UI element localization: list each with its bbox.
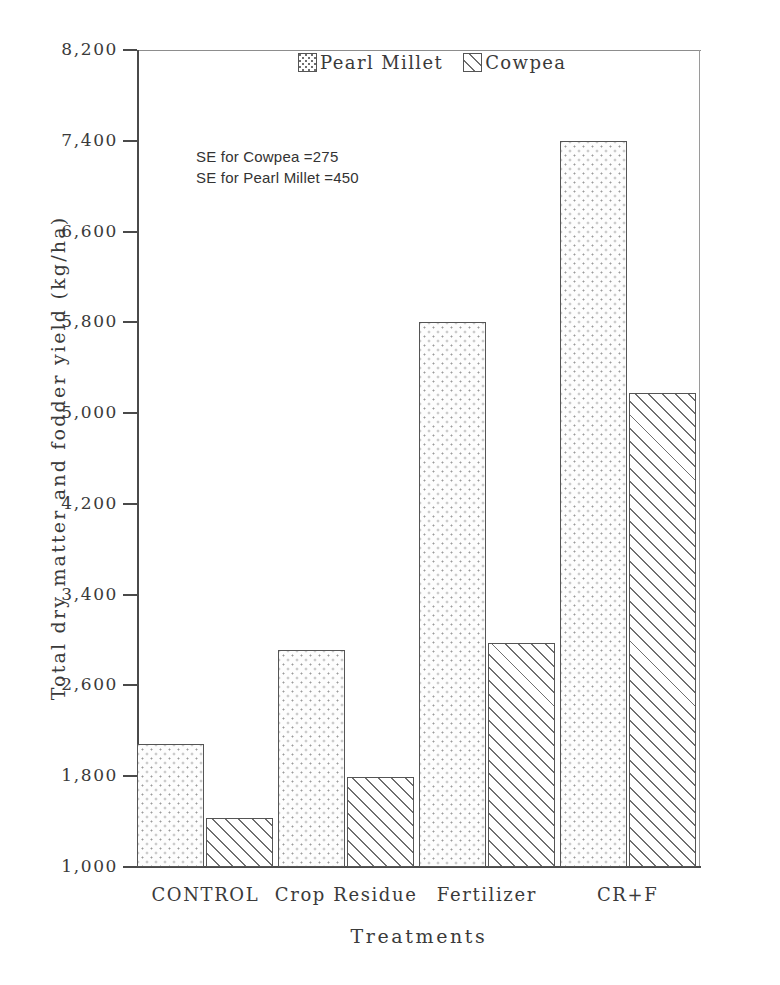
bar-pearl-millet-fertilizer bbox=[419, 322, 486, 867]
x-axis-label-cr-f: CR+F bbox=[528, 884, 728, 905]
bar-cowpea-fertilizer bbox=[488, 643, 555, 867]
legend-swatch-hatched-icon bbox=[463, 53, 482, 72]
plot-right-border bbox=[699, 50, 700, 868]
legend-swatch-dotted-icon bbox=[298, 53, 317, 72]
legend-item-cowpea: Cowpea bbox=[463, 52, 566, 73]
y-axis-tick bbox=[123, 412, 137, 414]
legend-label-cowpea: Cowpea bbox=[485, 52, 566, 73]
bar-pearl-millet-control bbox=[137, 744, 204, 867]
bar-pearl-millet-crop-residue bbox=[278, 650, 345, 867]
y-axis-tick bbox=[123, 321, 137, 323]
y-axis-tick bbox=[123, 49, 137, 51]
plot-top-border bbox=[137, 50, 701, 51]
y-axis-tick bbox=[123, 594, 137, 596]
bar-cowpea-cr-f bbox=[629, 393, 696, 867]
y-axis-tick bbox=[123, 231, 137, 233]
y-axis-tick bbox=[123, 775, 137, 777]
se-pearl-millet-text: SE for Pearl Millet =450 bbox=[196, 167, 359, 188]
bar-cowpea-control bbox=[206, 818, 273, 867]
legend-item-pearl-millet: Pearl Millet bbox=[298, 52, 443, 73]
se-cowpea-text: SE for Cowpea =275 bbox=[196, 146, 359, 167]
standard-error-annotation: SE for Cowpea =275 SE for Pearl Millet =… bbox=[196, 146, 359, 188]
y-axis-tick bbox=[123, 866, 137, 868]
legend-label-pearl-millet: Pearl Millet bbox=[320, 52, 443, 73]
y-axis-tick bbox=[123, 140, 137, 142]
chart-figure: 1,0001,8002,6003,4004,2005,0005,8006,600… bbox=[0, 0, 780, 985]
bar-pearl-millet-cr-f bbox=[560, 141, 627, 867]
x-axis-title: Treatments bbox=[137, 925, 701, 947]
y-axis-tick bbox=[123, 684, 137, 686]
bar-cowpea-crop-residue bbox=[347, 777, 414, 867]
y-axis-title: Total dry matter and fodder yield (kg/ha… bbox=[47, 138, 69, 778]
y-axis-tick bbox=[123, 503, 137, 505]
chart-legend: Pearl Millet Cowpea bbox=[298, 52, 567, 73]
